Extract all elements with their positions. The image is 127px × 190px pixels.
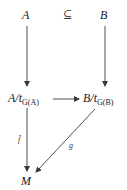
node-b-quotient: B/tG(B): [83, 92, 113, 109]
node-a-quotient-subscript: G(A): [22, 98, 39, 107]
node-b: B: [100, 9, 107, 21]
label-fbar: f̄: [18, 136, 20, 144]
node-a-quotient: A/tG(A): [8, 92, 39, 109]
label-g: g: [69, 142, 73, 150]
subset-relation-symbol: ⊆: [63, 9, 72, 20]
node-m: M: [21, 175, 31, 187]
node-b-quotient-subscript: G(B): [97, 98, 113, 107]
arrow-bquot-to-m-g: [36, 109, 95, 172]
node-a: A: [22, 9, 29, 21]
